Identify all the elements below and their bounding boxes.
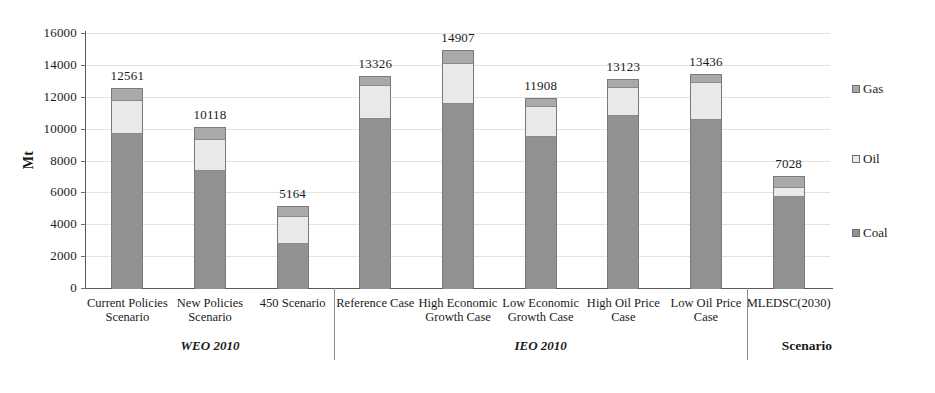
- bar-segment-coal[interactable]: [526, 137, 556, 289]
- legend-swatch-icon: [852, 155, 860, 163]
- category-label-line: 450 Scenario: [245, 296, 341, 310]
- bar-stack[interactable]: [690, 74, 722, 288]
- category-label-line: Case: [575, 310, 671, 324]
- bar-stack[interactable]: [277, 206, 309, 288]
- bar-stack[interactable]: [525, 98, 557, 288]
- group-separator: [747, 288, 748, 360]
- bar-value-label: 13436: [646, 54, 766, 70]
- x-axis-title: Scenario: [782, 338, 832, 354]
- category-label-line: Reference Case: [327, 296, 423, 310]
- bar-segment-gas[interactable]: [278, 207, 308, 218]
- bar-segment-coal[interactable]: [443, 104, 473, 289]
- stacked-bar-chart: Mt 0200040006000800010000120001400016000…: [0, 0, 935, 393]
- bar-segment-oil[interactable]: [443, 64, 473, 104]
- category-label-line: High Oil Price: [575, 296, 671, 310]
- bar-stack[interactable]: [442, 50, 474, 288]
- group-label: WEO 2010: [140, 338, 280, 354]
- bar-segment-gas[interactable]: [526, 99, 556, 107]
- bar-segment-coal[interactable]: [195, 171, 225, 289]
- bar-group[interactable]: 13436: [690, 33, 722, 288]
- y-axis-tick-label: 8000: [50, 153, 77, 169]
- bar-segment-oil[interactable]: [195, 140, 225, 171]
- bar-group[interactable]: 13326: [359, 33, 391, 288]
- category-label-line: Growth Case: [493, 310, 589, 324]
- bar-segment-coal[interactable]: [112, 134, 142, 289]
- bar-segment-gas[interactable]: [112, 89, 142, 101]
- bar-stack[interactable]: [111, 88, 143, 288]
- bar-value-label: 14907: [398, 30, 518, 46]
- bar-group[interactable]: 11908: [525, 33, 557, 288]
- bar-stack[interactable]: [607, 79, 639, 288]
- bar-group[interactable]: 5164: [277, 33, 309, 288]
- bar-segment-gas[interactable]: [691, 75, 721, 84]
- group-separator: [334, 288, 335, 360]
- x-axis-category-label: 450 Scenario: [245, 296, 341, 310]
- bar-segment-oil[interactable]: [360, 86, 390, 119]
- x-axis-category-label: High Oil PriceCase: [575, 296, 671, 324]
- bar-segment-oil[interactable]: [691, 83, 721, 120]
- bar-value-label: 7028: [729, 156, 849, 172]
- bar-segment-gas[interactable]: [195, 128, 225, 140]
- bar-stack[interactable]: [773, 176, 805, 288]
- y-axis-tick-label: 10000: [44, 121, 78, 137]
- group-label: IEO 2010: [471, 338, 611, 354]
- bar-stack[interactable]: [359, 76, 391, 288]
- bar-segment-gas[interactable]: [360, 77, 390, 86]
- category-label-line: MLEDSC(2030): [741, 296, 837, 310]
- bar-segment-gas[interactable]: [774, 177, 804, 188]
- legend-item-coal[interactable]: Coal: [852, 225, 888, 241]
- x-axis-category-label: Low EconomicGrowth Case: [493, 296, 589, 324]
- y-axis-tick-label: 16000: [44, 25, 78, 41]
- legend-swatch-icon: [852, 85, 860, 93]
- bar-group[interactable]: 13123: [607, 33, 639, 288]
- y-axis-tick: [81, 129, 86, 130]
- bar-segment-oil[interactable]: [112, 101, 142, 134]
- y-axis-tick-label: 4000: [50, 216, 77, 232]
- bar-segment-oil[interactable]: [774, 188, 804, 197]
- x-axis-category-label: MLEDSC(2030): [741, 296, 837, 310]
- legend-item-oil[interactable]: Oil: [852, 151, 880, 167]
- category-label-line: Scenario: [162, 310, 258, 324]
- x-axis-category-label: High EconomicGrowth Case: [410, 296, 506, 324]
- bar-segment-oil[interactable]: [608, 88, 638, 116]
- bar-group[interactable]: 12561: [111, 33, 143, 288]
- bar-segment-coal[interactable]: [608, 116, 638, 289]
- legend-item-gas[interactable]: Gas: [852, 81, 883, 97]
- category-label-line: Growth Case: [410, 310, 506, 324]
- bar-group[interactable]: 14907: [442, 33, 474, 288]
- y-axis-tick-label: 12000: [44, 89, 78, 105]
- plot-area: 0200040006000800010000120001400016000125…: [86, 33, 830, 288]
- bar-value-label: 13326: [315, 56, 435, 72]
- bar-segment-oil[interactable]: [278, 217, 308, 243]
- y-axis-tick: [81, 33, 86, 34]
- y-axis-tick: [81, 192, 86, 193]
- bar-segment-gas[interactable]: [443, 51, 473, 64]
- bar-group[interactable]: 10118: [194, 33, 226, 288]
- category-label-line: Current Policies: [79, 296, 175, 310]
- bar-segment-coal[interactable]: [691, 120, 721, 289]
- bar-segment-gas[interactable]: [608, 80, 638, 88]
- y-axis-title: Mt: [21, 151, 37, 169]
- category-label-line: Low Economic: [493, 296, 589, 310]
- legend-label: Oil: [863, 151, 880, 167]
- bar-segment-coal[interactable]: [278, 244, 308, 289]
- y-axis-tick: [81, 256, 86, 257]
- legend-label: Coal: [863, 225, 888, 241]
- category-label-line: Case: [658, 310, 754, 324]
- bar-value-label: 12561: [67, 68, 187, 84]
- bar-segment-oil[interactable]: [526, 107, 556, 136]
- x-axis-category-label: Reference Case: [327, 296, 423, 310]
- bar-stack[interactable]: [194, 127, 226, 288]
- category-label-line: New Policies: [162, 296, 258, 310]
- legend-swatch-icon: [852, 229, 860, 237]
- x-axis-category-label: Current PoliciesScenario: [79, 296, 175, 324]
- y-axis-tick: [81, 97, 86, 98]
- category-label-line: Scenario: [79, 310, 175, 324]
- bar-segment-coal[interactable]: [774, 197, 804, 289]
- x-axis-category-label: New PoliciesScenario: [162, 296, 258, 324]
- bar-segment-coal[interactable]: [360, 119, 390, 289]
- chart-legend: GasOilCoal: [852, 33, 932, 288]
- y-axis-tick-label: 0: [70, 280, 77, 296]
- y-axis-tick-label: 6000: [50, 184, 77, 200]
- bar-group[interactable]: 7028: [773, 33, 805, 288]
